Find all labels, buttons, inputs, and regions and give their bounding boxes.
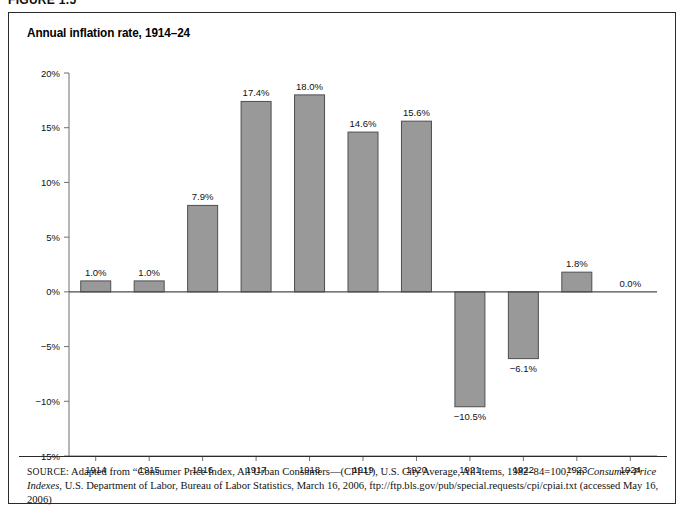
- bar-1916: [188, 205, 218, 291]
- source-label: SOURCE:: [27, 466, 69, 477]
- bar-chart-plot: 20%15%10%5%0%−5%−10%−15% 191419151916191…: [9, 13, 677, 505]
- value-label-1914: 1.0%: [85, 267, 107, 278]
- y-tick-label: 15%: [41, 122, 61, 133]
- value-label-1924: 0.0%: [619, 278, 641, 289]
- y-tick-label: 0%: [46, 286, 60, 297]
- value-label-1918: 18.0%: [296, 81, 323, 92]
- y-axis-ticks: 20%15%10%5%0%−5%−10%−15%: [35, 68, 69, 462]
- bar-1918: [295, 95, 325, 292]
- y-tick-label: 20%: [41, 68, 61, 79]
- source-divider: [19, 456, 667, 457]
- figure-box: Annual inflation rate, 1914–24 20%15%10%…: [8, 12, 676, 504]
- source-note: SOURCE: Adapted from “Consumer Price Ind…: [27, 465, 661, 507]
- bar-1923: [562, 272, 592, 292]
- value-label-1921: −10.5%: [454, 411, 487, 422]
- bar-1915: [134, 281, 164, 292]
- bar-1921: [455, 292, 485, 407]
- value-label-1917: 17.4%: [243, 87, 270, 98]
- source-line1-b: ,: [59, 480, 62, 491]
- bar-1917: [241, 101, 271, 291]
- y-tick-label: −5%: [41, 341, 61, 352]
- value-label-1920: 15.6%: [403, 107, 430, 118]
- bar-1919: [348, 132, 378, 292]
- source-line2: U.S. Department of Labor, Bureau of Labo…: [27, 480, 658, 505]
- bar-1920: [401, 121, 431, 292]
- bar-1914: [81, 281, 111, 292]
- source-line1-a: Adapted from “Consumer Price Index, All …: [69, 466, 587, 477]
- y-tick-label: 5%: [46, 232, 60, 243]
- bars-group: [81, 95, 592, 407]
- y-tick-label: −10%: [35, 396, 60, 407]
- value-label-1923: 1.8%: [566, 258, 588, 269]
- value-label-1916: 7.9%: [192, 191, 214, 202]
- figure-number-label: FIGURE 1.5: [8, 0, 76, 9]
- y-tick-label: 10%: [41, 177, 61, 188]
- value-label-1915: 1.0%: [138, 267, 160, 278]
- value-label-1922: −6.1%: [510, 363, 538, 374]
- bar-chart-svg: 20%15%10%5%0%−5%−10%−15% 191419151916191…: [9, 13, 677, 505]
- bar-1922: [508, 292, 538, 359]
- value-label-1919: 14.6%: [350, 118, 377, 129]
